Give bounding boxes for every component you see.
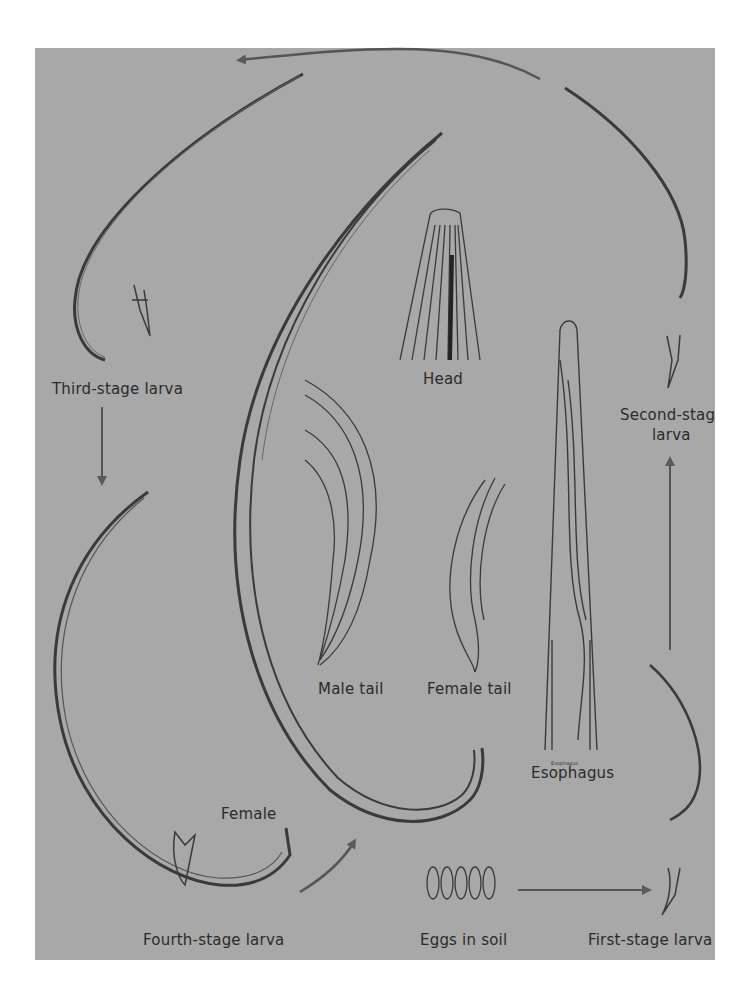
eggs-drawing bbox=[427, 867, 495, 899]
label-first-stage-larva: First-stage larva bbox=[588, 931, 712, 949]
arrow-top bbox=[240, 49, 540, 79]
label-female: Female bbox=[221, 805, 276, 823]
fourth-stage-larva-drawing bbox=[55, 492, 290, 885]
first-stage-small-drawing bbox=[662, 868, 680, 915]
male-tail-drawing bbox=[305, 380, 376, 665]
life-cycle-drawing bbox=[0, 0, 751, 998]
female-worm-drawing bbox=[235, 133, 483, 821]
esophagus-drawing bbox=[545, 321, 597, 750]
second-stage-small-drawing bbox=[667, 335, 680, 388]
label-female-tail: Female tail bbox=[427, 680, 512, 698]
label-fourth-stage-larva: Fourth-stage larva bbox=[143, 931, 284, 949]
label-eggs-in-soil: Eggs in soil bbox=[420, 931, 507, 949]
label-second-stage-line1: Second-stag bbox=[620, 406, 715, 424]
label-male-tail: Male tail bbox=[318, 680, 384, 698]
label-third-stage-larva: Third-stage larva bbox=[52, 380, 183, 398]
arrow-fourth-to-female bbox=[300, 842, 354, 892]
third-stage-larva-drawing bbox=[75, 74, 303, 360]
label-head: Head bbox=[423, 370, 463, 388]
third-stage-small-drawing bbox=[132, 285, 150, 336]
first-stage-arc-drawing bbox=[650, 665, 700, 820]
female-tail-drawing bbox=[450, 478, 505, 672]
head-drawing bbox=[400, 209, 480, 360]
second-stage-larva-drawing bbox=[565, 88, 686, 298]
label-esophagus: Esophagus bbox=[531, 764, 614, 782]
label-second-stage-line2: larva bbox=[652, 426, 691, 444]
